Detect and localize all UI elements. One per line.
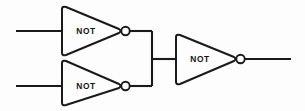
logic-circuit-diagram: NOT NOT NOT [0, 0, 305, 111]
not-gate-output-bubble-icon [236, 55, 244, 63]
not-gate-bottom-label: NOT [76, 81, 96, 91]
not-gate-bottom-bubble-icon [121, 82, 129, 90]
not-gate-top-bubble-icon [121, 27, 129, 35]
not-gate-top-label: NOT [76, 26, 96, 36]
not-gate-output: NOT [176, 35, 291, 85]
circuit-svg-canvas: NOT NOT NOT [0, 0, 305, 111]
not-gate-bottom: NOT [16, 61, 130, 106]
not-gate-output-label: NOT [190, 54, 210, 64]
tie-bus [130, 31, 176, 86]
not-gate-top: NOT [16, 7, 130, 56]
